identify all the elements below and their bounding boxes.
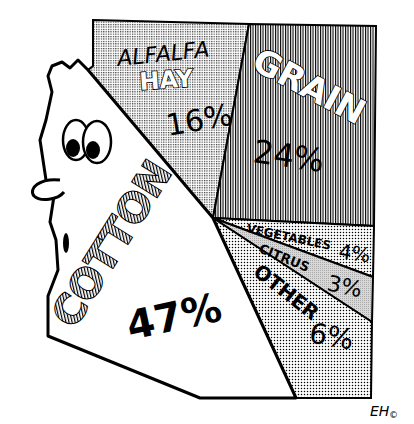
crop-chart: ALFALFA HAY 16% GRAIN 24% VEGETABLES 4% … [0,0,414,424]
left-pupil [66,139,80,157]
right-pupil [86,141,100,159]
nose-icon [32,180,64,200]
label-hay: HAY [138,64,194,96]
artist-signature: EH [370,403,390,419]
mouth-icon [63,233,69,253]
copyright-symbol: © [389,410,398,420]
value-vegetables: 4% [337,239,372,267]
